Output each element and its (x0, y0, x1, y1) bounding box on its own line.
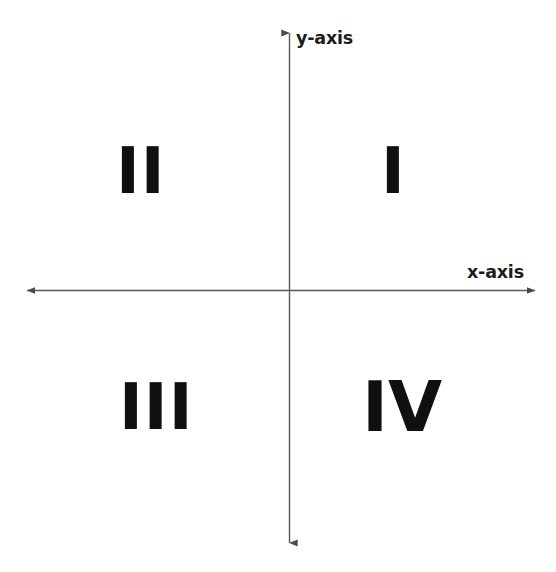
coordinate-plane-diagram: y-axis x-axis I II III IV (0, 0, 556, 572)
quadrant-three-numeral: III (119, 375, 193, 439)
y-axis-label: y-axis (296, 30, 353, 48)
quadrant-four-numeral: IV (362, 372, 442, 442)
x-axis-label: x-axis (467, 264, 524, 282)
axes-group (0, 0, 556, 572)
quadrant-two-numeral: II (116, 139, 166, 203)
quadrant-one-numeral: I (381, 139, 406, 203)
